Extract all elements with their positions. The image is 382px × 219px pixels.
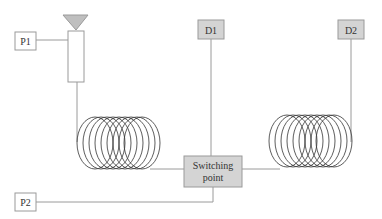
source-assembly [63, 15, 88, 82]
d1-box: D1 [198, 20, 224, 39]
triangle-icon [63, 15, 88, 30]
diagram-canvas: P1 P2 D1 D2 Switching point [0, 0, 382, 219]
d2-box: D2 [338, 20, 364, 39]
p2-label: P2 [20, 197, 31, 208]
d1-label: D1 [205, 25, 217, 36]
switching-point-box: Switching point [184, 156, 242, 187]
tube [68, 31, 84, 82]
switching-label-line2: point [203, 172, 224, 183]
switching-label-line1: Switching [193, 160, 234, 171]
coil-2-icon [269, 115, 352, 167]
p1-box: P1 [15, 32, 36, 50]
p2-box: P2 [15, 193, 36, 211]
coil-1-icon [77, 117, 160, 169]
p1-label: P1 [20, 36, 31, 47]
d2-label: D2 [345, 25, 357, 36]
